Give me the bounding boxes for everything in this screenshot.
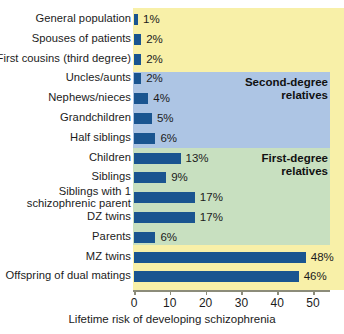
bar xyxy=(134,133,155,144)
bar xyxy=(134,192,195,203)
bar-value-label: 46% xyxy=(304,270,327,282)
bar xyxy=(134,212,195,223)
table-row: Offspring of dual matings46% xyxy=(0,269,344,289)
row-label-line1: Siblings xyxy=(0,171,131,183)
x-axis-tick-label: 30 xyxy=(235,296,248,310)
bar xyxy=(134,271,299,282)
x-axis-title: Lifetime risk of developing schizophreni… xyxy=(0,313,344,325)
row-label: Offspring of dual matings xyxy=(0,270,131,282)
x-axis-tick-label: 10 xyxy=(163,296,176,310)
row-label-line1: Children xyxy=(0,152,131,164)
row-label: MZ twins xyxy=(0,251,131,263)
bar-value-label: 13% xyxy=(186,152,209,164)
bar xyxy=(134,252,306,263)
row-label-line1: Grandchildren xyxy=(0,112,131,124)
row-label-line1: First cousins (third degree) xyxy=(0,53,131,65)
row-label-line1: Siblings with 1 xyxy=(0,186,131,198)
row-label: Siblings xyxy=(0,171,131,183)
x-axis-tick xyxy=(170,290,172,295)
bar-value-label: 5% xyxy=(157,112,174,124)
table-row: General population1% xyxy=(0,12,344,32)
bar-value-label: 6% xyxy=(160,231,177,243)
row-label-line1: DZ twins xyxy=(0,211,131,223)
bar-value-label: 2% xyxy=(146,72,163,84)
bar xyxy=(134,232,155,243)
table-row: Grandchildren5% xyxy=(0,111,344,131)
bar-value-label: 9% xyxy=(171,171,188,183)
legend-first-degree-line1: First-degree xyxy=(262,152,328,165)
row-label: Parents xyxy=(0,231,131,243)
row-label-line1: Spouses of patients xyxy=(0,33,131,45)
x-axis-tick-label: 20 xyxy=(199,296,212,310)
legend-second-degree-line1: Second-degree xyxy=(245,76,328,89)
x-axis-tick xyxy=(206,290,208,295)
table-row: First cousins (third degree)2% xyxy=(0,52,344,72)
table-row: DZ twins17% xyxy=(0,210,344,230)
bar-value-label: 1% xyxy=(143,13,160,25)
x-axis-tick xyxy=(134,290,136,295)
row-label: First cousins (third degree) xyxy=(0,53,131,65)
bar xyxy=(134,93,148,104)
legend-first-degree: First-degree relatives xyxy=(262,152,328,178)
row-label-line2: schizophrenic parent xyxy=(0,198,131,210)
x-axis-tick xyxy=(241,290,243,295)
schizophrenia-risk-chart: General population1%Spouses of patients2… xyxy=(0,0,344,334)
row-label-line1: Uncles/aunts xyxy=(0,72,131,84)
row-label-line1: Nephews/nieces xyxy=(0,92,131,104)
bar xyxy=(134,14,138,25)
row-label: Grandchildren xyxy=(0,112,131,124)
bar xyxy=(134,153,181,164)
bar-value-label: 4% xyxy=(153,92,170,104)
table-row: Siblings with 1schizophrenic parent17% xyxy=(0,190,344,210)
bar-value-label: 2% xyxy=(146,53,163,65)
bar-value-label: 17% xyxy=(200,191,223,203)
legend-first-degree-line2: relatives xyxy=(262,165,328,178)
table-row: Spouses of patients2% xyxy=(0,32,344,52)
bar-value-label: 17% xyxy=(200,211,223,223)
bar xyxy=(134,172,166,183)
row-label-line1: Parents xyxy=(0,231,131,243)
row-label: Siblings with 1schizophrenic parent xyxy=(0,186,131,209)
row-label-line1: General population xyxy=(0,13,131,25)
bar xyxy=(134,73,141,84)
table-row: MZ twins48% xyxy=(0,250,344,270)
row-label: Spouses of patients xyxy=(0,33,131,45)
x-axis-tick xyxy=(313,290,315,295)
bar-value-label: 6% xyxy=(160,132,177,144)
x-axis-tick-label: 50 xyxy=(306,296,319,310)
x-axis-tick-label: 0 xyxy=(131,296,138,310)
bar-value-label: 2% xyxy=(146,33,163,45)
bar-value-label: 48% xyxy=(311,251,334,263)
row-label: Uncles/aunts xyxy=(0,72,131,84)
row-label-line1: Half siblings xyxy=(0,132,131,144)
bar xyxy=(134,54,141,65)
row-label: Children xyxy=(0,152,131,164)
row-label: Nephews/nieces xyxy=(0,92,131,104)
row-label-line1: Offspring of dual matings xyxy=(0,270,131,282)
table-row: Parents6% xyxy=(0,230,344,250)
table-row: Half siblings6% xyxy=(0,131,344,151)
x-axis-tick xyxy=(277,290,279,295)
x-axis-tick-label: 40 xyxy=(271,296,284,310)
row-label: General population xyxy=(0,13,131,25)
bar xyxy=(134,34,141,45)
row-label: Half siblings xyxy=(0,132,131,144)
row-label-line1: MZ twins xyxy=(0,251,131,263)
x-axis-line xyxy=(133,290,330,292)
bar xyxy=(134,113,152,124)
legend-second-degree-line2: relatives xyxy=(245,89,328,102)
legend-second-degree: Second-degree relatives xyxy=(245,76,328,102)
row-label: DZ twins xyxy=(0,211,131,223)
